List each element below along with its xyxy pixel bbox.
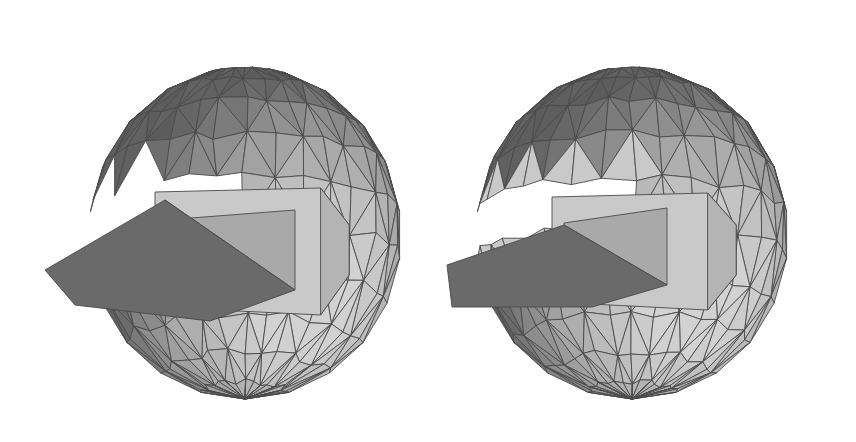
mesh-face [93,155,114,200]
left-sphere-mesh [45,67,400,399]
right-sphere-mesh [447,67,787,399]
mesh-figure [0,0,856,442]
